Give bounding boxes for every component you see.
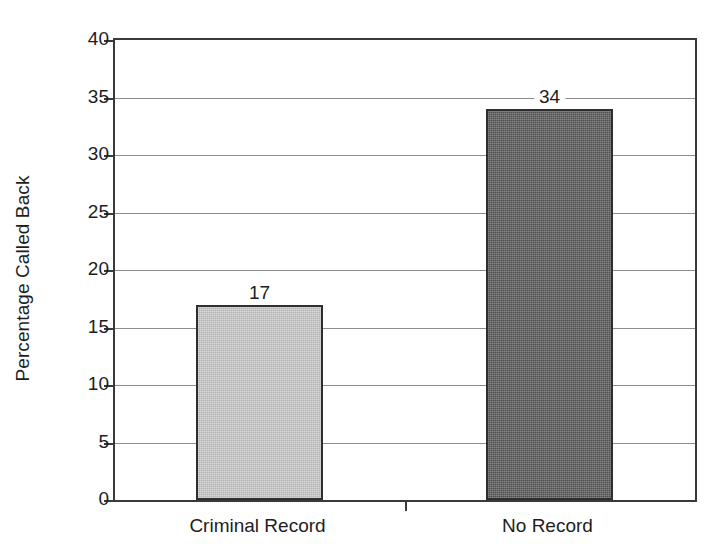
y-tick-label: 5 — [98, 432, 109, 452]
bar-texture — [488, 111, 611, 498]
bar-value-label: 34 — [534, 86, 565, 107]
y-tick-label: 20 — [88, 259, 109, 279]
bar-no-record[interactable]: 34 — [486, 109, 613, 500]
x-axis-label-no-record: No Record — [502, 515, 593, 537]
x-axis-center-tick — [405, 500, 407, 511]
y-tick-label: 30 — [88, 144, 109, 164]
gridline — [115, 98, 695, 99]
bar-texture — [198, 307, 321, 499]
bar-chart-figure: Percentage Called Back 4035302520151050 … — [0, 0, 727, 557]
y-tick-label: 10 — [88, 374, 109, 394]
y-axis-title: Percentage Called Back — [0, 0, 46, 557]
y-tick-label: 0 — [98, 489, 109, 509]
plot-area: 4035302520151050 1734 — [113, 38, 697, 502]
y-tick-label: 15 — [88, 317, 109, 337]
y-tick-label: 40 — [88, 29, 109, 49]
y-tick-label: 25 — [88, 202, 109, 222]
y-tick-label: 35 — [88, 87, 109, 107]
x-axis-label-criminal-record: Criminal Record — [189, 515, 325, 537]
bar-value-label: 17 — [244, 282, 275, 303]
bar-criminal-record[interactable]: 17 — [196, 305, 323, 501]
